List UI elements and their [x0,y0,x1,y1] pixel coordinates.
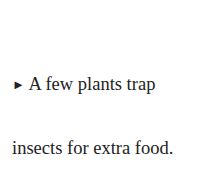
play-arrow-icon: ► [12,77,25,92]
text-paragraph: ► A few plants trap insects for extra fo… [12,31,209,178]
text-line: insects for extra food. [12,138,209,159]
text-line: ► A few plants trap [12,74,209,95]
